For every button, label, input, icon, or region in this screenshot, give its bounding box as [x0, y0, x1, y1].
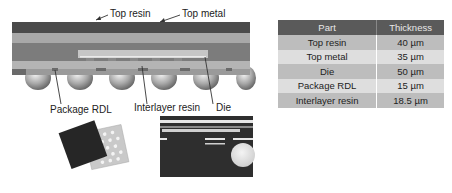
cell-part: Die	[278, 64, 377, 79]
label-package-rdl: Package RDL	[50, 104, 112, 115]
label-top-resin: Top resin	[110, 8, 151, 19]
cell-part: Top metal	[278, 50, 377, 65]
table-header-row: Part Thickness	[278, 20, 444, 35]
table-row: Top resin 40 µm	[278, 35, 444, 50]
thickness-table: Part Thickness Top resin 40 µm Top metal…	[278, 20, 444, 108]
cell-part: Package RDL	[278, 79, 377, 94]
top-resin-layer	[12, 22, 250, 33]
cell-thickness: 35 µm	[377, 50, 444, 65]
header-part: Part	[278, 20, 377, 35]
cell-part: Interlayer resin	[278, 93, 377, 108]
package-rdl-layer	[12, 69, 250, 75]
cell-thickness: 15 µm	[377, 79, 444, 94]
table-row: Interlayer resin 18.5 µm	[278, 93, 444, 108]
table-row: Top metal 35 µm	[278, 50, 444, 65]
cell-thickness: 18.5 µm	[377, 93, 444, 108]
sem-cross-section-image	[160, 116, 255, 177]
interlayer-resin-layer	[12, 61, 250, 69]
header-thickness: Thickness	[377, 20, 444, 35]
top-metal-layer	[12, 33, 250, 43]
package-photo	[59, 120, 129, 169]
label-top-metal: Top metal	[182, 8, 225, 19]
cell-thickness: 40 µm	[377, 35, 444, 50]
table-row: Package RDL 15 µm	[278, 79, 444, 94]
cell-part: Top resin	[278, 35, 377, 50]
table-row: Die 50 µm	[278, 64, 444, 79]
label-interlayer-resin: Interlayer resin	[134, 102, 200, 113]
label-die: Die	[216, 102, 231, 113]
cell-thickness: 50 µm	[377, 64, 444, 79]
